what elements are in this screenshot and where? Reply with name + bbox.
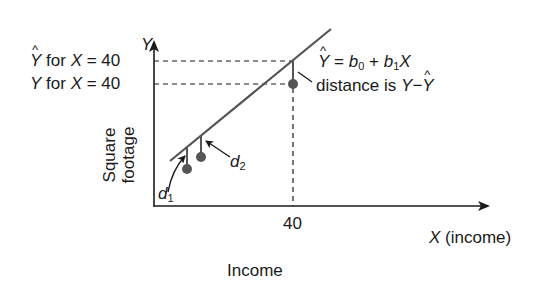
d2-arrow xyxy=(206,141,230,157)
y-for-x40-label: Y for X = 40 xyxy=(30,75,120,92)
caption-income: Income xyxy=(227,262,283,279)
regression-equation: Y = b0 + b1X xyxy=(318,53,411,72)
distance-pointer xyxy=(298,72,312,82)
x-axis-label: X (income) xyxy=(429,229,511,246)
x-tick-40: 40 xyxy=(283,215,302,232)
data-point-d1 xyxy=(182,164,192,174)
regression-line xyxy=(170,29,331,161)
y-axis-label: Square footage xyxy=(100,105,138,205)
d2-label: d2 xyxy=(230,153,246,172)
yhat-for-x40-label: Y for X = 40 xyxy=(30,52,120,69)
regression-diagram xyxy=(0,0,556,295)
d1-label: d1 xyxy=(158,185,174,204)
distance-label: distance is Y−Y xyxy=(316,77,434,94)
data-point-40 xyxy=(288,79,298,89)
data-point-d2 xyxy=(196,152,206,162)
y-axis-symbol: Y xyxy=(141,36,152,53)
